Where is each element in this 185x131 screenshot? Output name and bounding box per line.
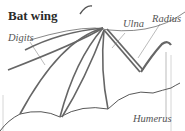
label-ulna: Ulna bbox=[123, 18, 144, 29]
forearm-bones bbox=[104, 29, 143, 72]
thumb-claw bbox=[80, 6, 92, 14]
label-digits: Digits bbox=[8, 32, 34, 43]
label-radius: Radius bbox=[152, 13, 181, 24]
label-humerus: Humerus bbox=[133, 113, 172, 124]
bat-wing-diagram: Bat wing Digits Ulna Radius Humerus bbox=[0, 0, 185, 131]
leader-lines bbox=[30, 24, 166, 118]
diagram-title: Bat wing bbox=[8, 8, 57, 24]
